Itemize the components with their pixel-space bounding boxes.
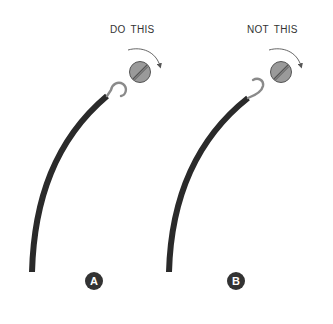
slotted-screw-icon bbox=[130, 62, 151, 83]
wire-a bbox=[32, 96, 107, 272]
hook-b bbox=[248, 79, 263, 98]
badge-a: A bbox=[85, 272, 103, 290]
panel-a: A bbox=[32, 49, 160, 290]
svg-text:B: B bbox=[232, 275, 240, 287]
badge-b: B bbox=[227, 272, 245, 290]
wiring-diagram: A B bbox=[0, 0, 333, 324]
panel-b: B bbox=[169, 49, 301, 290]
slotted-screw-icon bbox=[271, 62, 292, 83]
wire-b bbox=[169, 98, 248, 272]
svg-text:A: A bbox=[90, 275, 98, 287]
hook-a bbox=[107, 83, 126, 96]
